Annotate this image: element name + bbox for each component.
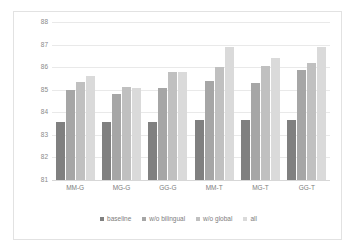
bar bbox=[76, 82, 85, 180]
bar bbox=[225, 47, 234, 180]
bar bbox=[205, 81, 214, 180]
y-axis-tick-label: 85 bbox=[26, 87, 48, 94]
x-axis: MM-GMG-GGG-GMM-TMG-TGG-T bbox=[52, 184, 330, 191]
legend-label: w/o global bbox=[203, 216, 232, 223]
bar-group-gg-t bbox=[284, 22, 330, 180]
bar-group-mg-t bbox=[237, 22, 283, 180]
bar bbox=[317, 47, 326, 180]
x-axis-tick-label: MG-T bbox=[237, 184, 283, 191]
bar bbox=[261, 66, 270, 180]
y-axis-tick-label: 87 bbox=[26, 42, 48, 49]
x-axis-tick-label: GG-T bbox=[284, 184, 330, 191]
bar bbox=[307, 63, 316, 180]
chart-legend: baselinew/o bilingualw/o globalall bbox=[14, 216, 343, 223]
chart-frame: 8887868584838281 MM-GMG-GGG-GMM-TMG-TGG-… bbox=[13, 11, 342, 240]
y-axis: 8887868584838281 bbox=[24, 22, 48, 180]
legend-item-w-o-global: w/o global bbox=[196, 216, 232, 223]
bar bbox=[241, 120, 250, 180]
bar bbox=[86, 76, 95, 180]
bar bbox=[112, 94, 121, 180]
bar bbox=[178, 72, 187, 180]
bar bbox=[122, 87, 131, 180]
legend-swatch-icon bbox=[100, 217, 104, 221]
y-axis-tick-label: 83 bbox=[26, 132, 48, 139]
legend-label: baseline bbox=[107, 216, 131, 223]
bar-series-layer bbox=[52, 22, 330, 180]
bar bbox=[195, 120, 204, 180]
bar-group-gg-g bbox=[145, 22, 191, 180]
bar-group-mm-g bbox=[52, 22, 98, 180]
legend-item-all: all bbox=[243, 216, 257, 223]
bar-group-mm-t bbox=[191, 22, 237, 180]
legend-item-baseline: baseline bbox=[100, 216, 131, 223]
bar bbox=[251, 83, 260, 180]
bar bbox=[132, 88, 141, 180]
x-axis-tick-label: MM-T bbox=[191, 184, 237, 191]
bar bbox=[215, 67, 224, 180]
x-axis-tick-label: MG-G bbox=[98, 184, 144, 191]
legend-label: all bbox=[250, 216, 257, 223]
bar bbox=[297, 70, 306, 180]
y-axis-tick-label: 81 bbox=[26, 177, 48, 184]
bar bbox=[158, 88, 167, 181]
x-axis-tick-label: MM-G bbox=[52, 184, 98, 191]
bar bbox=[66, 90, 75, 180]
bar bbox=[148, 122, 157, 180]
bar bbox=[271, 58, 280, 180]
legend-item-w-o-bilingual: w/o bilingual bbox=[142, 216, 185, 223]
bar-group-mg-g bbox=[98, 22, 144, 180]
y-axis-tick-label: 84 bbox=[26, 109, 48, 116]
y-axis-tick-label: 86 bbox=[26, 64, 48, 71]
x-axis-tick-label: GG-G bbox=[145, 184, 191, 191]
bar bbox=[102, 122, 111, 180]
bar bbox=[168, 72, 177, 180]
legend-swatch-icon bbox=[243, 217, 247, 221]
gridline-81 bbox=[52, 180, 330, 181]
bar bbox=[56, 122, 65, 180]
y-axis-tick-label: 82 bbox=[26, 154, 48, 161]
bar bbox=[287, 120, 296, 180]
legend-label: w/o bilingual bbox=[149, 216, 185, 223]
legend-swatch-icon bbox=[196, 217, 200, 221]
legend-swatch-icon bbox=[142, 217, 146, 221]
y-axis-tick-label: 88 bbox=[26, 19, 48, 26]
